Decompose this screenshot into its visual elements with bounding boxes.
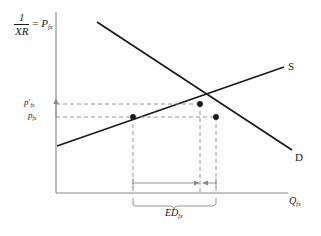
fraction-numerator: 1 xyxy=(14,12,29,25)
demand-curve-label: D xyxy=(295,152,303,163)
price-low-subscript: fx xyxy=(33,115,37,121)
supply-curve-label: S xyxy=(288,61,294,72)
demand-curve xyxy=(97,22,292,150)
point-supply-at-low-price xyxy=(130,114,136,120)
diagram-canvas: 1 XR = Pfx p′fx pfx S D Qfx EDfx xyxy=(0,0,321,236)
price-high-subscript: fx xyxy=(30,102,34,108)
price-low-label: pfx xyxy=(28,111,37,121)
excess-demand-base: ED xyxy=(165,207,178,218)
equals-sign: = xyxy=(32,17,38,29)
arrow-head-left-icon xyxy=(202,180,208,185)
exchange-rate-fraction: 1 XR xyxy=(14,12,29,37)
point-equilibrium xyxy=(197,101,203,107)
point-demand-at-low-price xyxy=(213,114,219,120)
quantity-subscript: fx xyxy=(296,200,300,207)
x-axis-label: Qfx xyxy=(289,196,301,207)
price-rise-arrow-head-icon xyxy=(53,98,58,104)
price-symbol: P xyxy=(41,17,48,29)
fraction-denominator: XR xyxy=(14,25,29,37)
excess-demand-label: EDfx xyxy=(165,208,183,219)
arrow-head-right-icon xyxy=(194,180,200,185)
y-axis-label: 1 XR = Pfx xyxy=(14,12,53,37)
price-subscript: fx xyxy=(48,23,53,30)
supply-curve xyxy=(57,67,284,146)
price-high-label: p′fx xyxy=(24,98,35,108)
excess-demand-subscript: fx xyxy=(178,212,182,219)
